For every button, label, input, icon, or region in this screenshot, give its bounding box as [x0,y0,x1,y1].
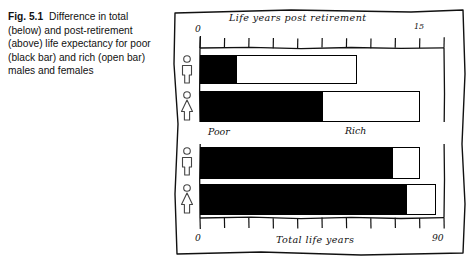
bar-post-retirement-male [200,55,357,84]
bottom-axis-title: Total life years [276,234,354,245]
bottom-axis-end-label: 90 [432,232,444,243]
figure-caption: Fig. 5.1Difference in total (below) and … [8,10,160,78]
figure-panel: Life years post retirement 0 15 Total li… [171,4,469,258]
bar-fill-poor [201,185,407,214]
bar-total-life-female [200,184,436,215]
female-pictogram [177,183,197,218]
bar-total-life-male [200,147,420,179]
bar-post-retirement-female [200,91,420,122]
top-axis-end-label: 15 [414,22,424,31]
rich-group-label: Rich [345,125,366,136]
male-pictogram [177,54,197,88]
plot-layer: Life years post retirement 0 15 Total li… [171,4,469,258]
bar-fill-poor [201,92,323,121]
bar-fill-poor [201,148,393,178]
bar-fill-poor [201,56,237,83]
top-axis-start-label: 0 [195,23,201,34]
bottom-axis-start-label: 0 [195,232,201,243]
figure-number: Fig. 5.1 [8,11,43,22]
female-pictogram [177,90,197,125]
top-axis-title: Life years post retirement [229,12,367,23]
poor-group-label: Poor [208,126,230,137]
male-pictogram [177,146,197,180]
